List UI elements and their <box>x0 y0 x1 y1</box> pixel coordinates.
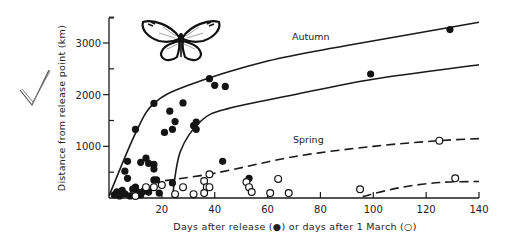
x-axis-title: Days after release (●) or days after 1 M… <box>173 221 416 232</box>
spring-data-point <box>267 190 274 197</box>
x-tick-label: 100 <box>364 204 383 215</box>
autumn-data-point <box>169 179 176 186</box>
autumn-data-point <box>219 158 226 165</box>
x-tick-label: 140 <box>469 204 488 215</box>
spring-data-point <box>158 182 165 189</box>
spring-data-point <box>357 186 364 193</box>
autumn-data-point <box>150 100 157 107</box>
y-tick-label: 1000 <box>76 141 101 152</box>
autumn-data-point <box>121 168 128 175</box>
autumn-data-point <box>166 108 173 115</box>
autumn-data-point <box>211 82 218 89</box>
autumn-data-point <box>171 118 178 125</box>
autumn-data-point <box>124 158 131 165</box>
autumn-data-point <box>161 129 168 136</box>
spring-data-point <box>436 137 443 144</box>
autumn-data-point <box>367 70 374 77</box>
autumn-data-point <box>179 99 186 106</box>
autumn-data-point <box>132 126 139 133</box>
spring-data-point <box>206 184 213 191</box>
spring-data-point <box>190 191 197 198</box>
check-mark-icon <box>20 70 50 105</box>
autumn-data-point <box>156 189 163 196</box>
spring-data-point <box>275 175 282 182</box>
migration-distance-chart: 100020003000 20406080100120140 Distance … <box>0 0 506 235</box>
autumn-data-point <box>193 118 200 125</box>
autumn-data-point <box>222 83 229 90</box>
spring-data-point <box>180 184 187 191</box>
spring-data-point <box>132 193 139 200</box>
y-axis-title: Distance from release point (km) <box>56 25 67 191</box>
autumn-data-point <box>169 126 176 133</box>
y-axis-ticks: 100020003000 <box>76 17 114 172</box>
x-tick-label: 40 <box>208 204 221 215</box>
spring-data-point <box>248 189 255 196</box>
butterfly-icon <box>143 21 220 60</box>
spring-data-point <box>143 184 150 191</box>
y-tick-label: 3000 <box>76 38 101 49</box>
spring-upper-curve <box>151 139 479 183</box>
autumn-data-point <box>129 186 136 193</box>
spring-data-point <box>285 190 292 197</box>
spring-lower-curve <box>363 181 479 196</box>
x-tick-label: 120 <box>417 204 436 215</box>
spring-data-point <box>206 171 213 178</box>
x-tick-label: 60 <box>261 204 274 215</box>
autumn-data-point <box>193 126 200 133</box>
x-tick-label: 20 <box>155 204 168 215</box>
x-tick-label: 80 <box>314 204 327 215</box>
y-tick-label: 2000 <box>76 90 101 101</box>
spring-data-point <box>172 191 179 198</box>
spring-data-point <box>452 175 459 182</box>
autumn-label: Autumn <box>292 31 330 42</box>
autumn-data-point <box>206 75 213 82</box>
autumn-data-point <box>124 175 131 182</box>
autumn-data-point <box>150 165 157 172</box>
spring-data-point <box>201 190 208 197</box>
autumn-lower-envelope-curve <box>172 65 479 197</box>
y-axis <box>109 18 114 198</box>
autumn-data-point <box>446 26 453 33</box>
spring-data-point <box>151 184 158 191</box>
spring-label: Spring <box>293 134 324 145</box>
